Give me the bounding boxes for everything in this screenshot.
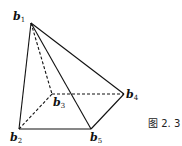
pyramid-diagram: b1b2b3b4b5 图 2. 3 (0, 0, 182, 146)
vertex-label-b5: b5 (90, 131, 102, 145)
vertex-labels-group: b1b2b3b4b5 (10, 10, 139, 145)
vertex-label-b2: b2 (10, 131, 22, 145)
edge-b2-b3 (19, 94, 52, 129)
edge-b5-b4 (91, 94, 124, 129)
figure-caption: 图 2. 3 (148, 118, 180, 129)
edges-group (19, 23, 124, 129)
edge-b1-b2 (19, 23, 31, 129)
vertex-label-b3: b3 (53, 96, 65, 110)
edge-b1-b3 (31, 23, 52, 94)
edge-b1-b5 (31, 23, 91, 129)
edge-b1-b4 (31, 23, 124, 94)
vertex-label-b4: b4 (126, 88, 139, 102)
vertex-label-b1: b1 (13, 10, 25, 24)
